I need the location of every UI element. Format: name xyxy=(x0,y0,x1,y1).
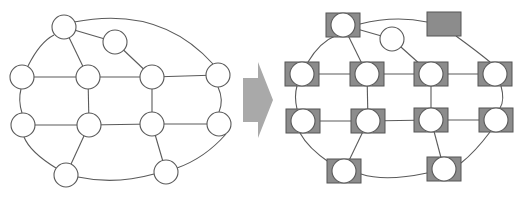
network-node xyxy=(380,27,404,51)
ring-link xyxy=(20,89,22,113)
left-graph xyxy=(10,15,231,187)
network-node xyxy=(154,160,178,184)
right-graph xyxy=(285,12,513,183)
network-node xyxy=(326,13,360,37)
node-circle xyxy=(419,108,443,132)
network-node xyxy=(414,108,448,132)
ring-link xyxy=(456,36,490,62)
node-circle xyxy=(484,108,508,132)
ring-link xyxy=(78,174,154,180)
network-node xyxy=(52,15,76,39)
node-circle xyxy=(103,30,127,54)
ring-link xyxy=(28,35,54,66)
network-node xyxy=(285,62,319,86)
network-node xyxy=(478,62,512,86)
ring-link xyxy=(500,86,503,108)
standalone-device-box xyxy=(427,12,461,36)
ring-link xyxy=(218,87,221,112)
ring-link xyxy=(74,18,213,64)
network-node xyxy=(103,30,127,54)
network-node xyxy=(10,65,34,89)
ring-link xyxy=(360,19,427,24)
diagram-canvas xyxy=(0,0,526,199)
node-circle xyxy=(356,109,380,133)
network-node xyxy=(140,65,164,89)
node-circle xyxy=(355,62,379,86)
network-node xyxy=(207,112,231,136)
network-node xyxy=(427,157,461,181)
ring-link xyxy=(24,137,56,168)
ring-link xyxy=(300,133,330,163)
node-circle xyxy=(332,159,356,183)
network-node xyxy=(77,113,101,137)
node-circle xyxy=(10,65,34,89)
network-node xyxy=(286,109,320,133)
network-node xyxy=(76,65,100,89)
network-node xyxy=(351,109,385,133)
node-circle xyxy=(331,13,355,37)
network-transformation-diagram xyxy=(0,0,526,199)
network-node xyxy=(479,108,513,132)
node-circle xyxy=(154,160,178,184)
network-node xyxy=(327,159,361,183)
node-circle xyxy=(52,15,76,39)
node-circle xyxy=(483,62,507,86)
ring-link xyxy=(361,173,427,178)
node-circle xyxy=(206,63,230,87)
node-circle xyxy=(11,113,35,137)
network-node xyxy=(140,112,164,136)
node-circle xyxy=(432,157,456,181)
node-circle xyxy=(207,112,231,136)
node-circle xyxy=(76,65,100,89)
node-circle xyxy=(140,112,164,136)
network-node xyxy=(350,62,384,86)
ring-link xyxy=(177,134,226,168)
ring-link xyxy=(461,132,490,163)
ring-link xyxy=(296,86,298,109)
ring-link xyxy=(308,36,335,62)
node-circle xyxy=(77,113,101,137)
right-arrow-icon xyxy=(243,62,273,138)
network-node xyxy=(54,163,78,187)
network-node xyxy=(206,63,230,87)
network-node xyxy=(414,62,448,86)
node-circle xyxy=(419,62,443,86)
node-circle xyxy=(380,27,404,51)
node-circle xyxy=(54,163,78,187)
node-circle xyxy=(140,65,164,89)
node-circle xyxy=(291,109,315,133)
network-node xyxy=(11,113,35,137)
node-circle xyxy=(290,62,314,86)
